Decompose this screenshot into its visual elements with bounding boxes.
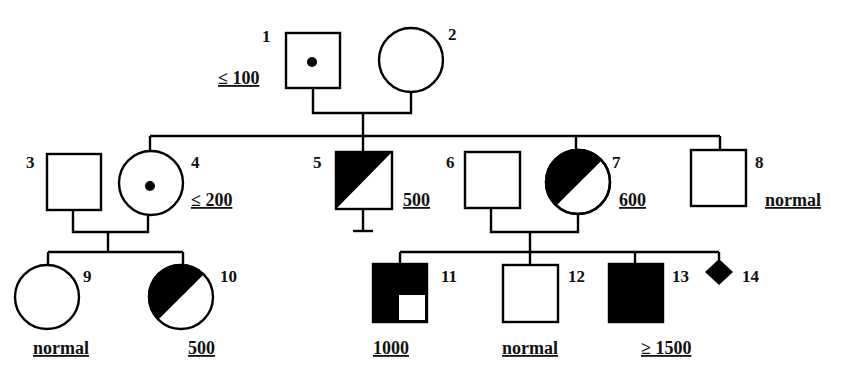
individual-number: 1: [262, 27, 271, 46]
half-affected-fill: [148, 264, 204, 320]
male-square-symbol: [691, 150, 746, 206]
individual-number: 5: [313, 153, 322, 172]
individual-1: 1 ≤ 100: [218, 27, 340, 88]
female-circle-symbol: [379, 28, 443, 92]
individual-value: 600: [619, 190, 646, 210]
diamond-symbol: [705, 259, 733, 285]
individual-9: 9 normal: [15, 265, 92, 358]
individual-7: 7 600: [546, 150, 646, 214]
individual-number: 8: [755, 153, 764, 172]
individual-number: 4: [191, 153, 200, 172]
individual-5: 5 500: [313, 152, 430, 231]
individual-3: 3: [26, 153, 101, 210]
pedigree-chart: 1 ≤ 100 2 3 4 ≤ 200 5 500 6 7 600: [0, 0, 852, 372]
individual-value: normal: [33, 338, 89, 358]
individual-value: 500: [188, 338, 215, 358]
individual-value: 1000: [373, 338, 409, 358]
individual-10: 10 500: [148, 264, 237, 358]
individual-number: 2: [448, 25, 457, 44]
marriage-line: [313, 88, 411, 113]
individual-number: 3: [26, 153, 35, 172]
individual-13: 13 ≥ 1500: [609, 264, 691, 358]
individual-14: 14: [705, 259, 760, 286]
individual-6: 6: [446, 152, 520, 208]
male-square-symbol: [609, 264, 663, 322]
individual-number: 12: [568, 267, 585, 286]
individual-number: 6: [446, 153, 455, 172]
individual-number: 14: [742, 267, 760, 286]
individual-value: 500: [403, 190, 430, 210]
individual-8: 8 normal: [691, 150, 821, 210]
individual-number: 11: [441, 267, 457, 286]
male-square-symbol: [47, 154, 101, 210]
female-circle-symbol: [15, 265, 79, 329]
individual-number: 9: [83, 267, 92, 286]
individual-4: 4 ≤ 200: [119, 151, 232, 215]
unaffected-quadrant: [399, 295, 425, 320]
individual-value: ≤ 100: [218, 68, 259, 88]
individual-number: 10: [220, 267, 237, 286]
individual-number: 13: [672, 267, 689, 286]
male-square-symbol: [465, 152, 520, 208]
male-square-symbol: [503, 265, 558, 322]
marriage-line: [73, 210, 148, 232]
individual-value: normal: [502, 338, 558, 358]
individual-11: 11 1000: [373, 264, 457, 358]
carrier-dot-icon: [145, 181, 155, 191]
individual-2: 2: [379, 25, 457, 92]
carrier-dot-icon: [307, 57, 317, 67]
individual-value: ≥ 1500: [641, 338, 691, 358]
individual-12: 12 normal: [502, 265, 585, 358]
individual-value: ≤ 200: [191, 190, 232, 210]
individual-number: 7: [612, 153, 621, 172]
individual-value: normal: [765, 190, 821, 210]
